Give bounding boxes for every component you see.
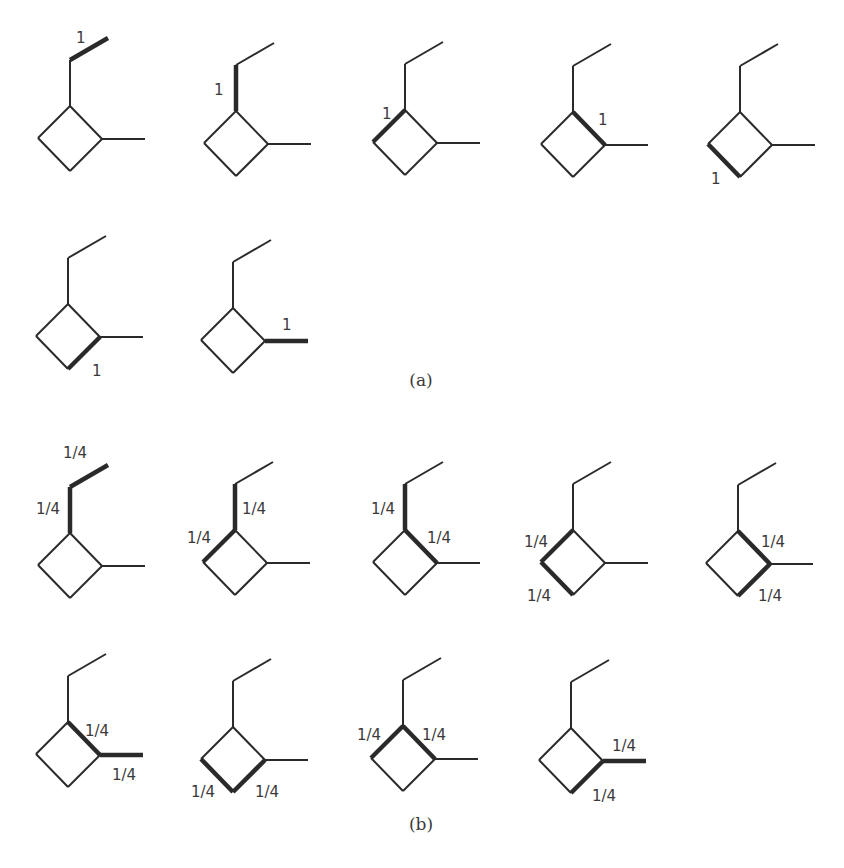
ring-top-right-bond [233,727,265,760]
ring-bottom-left-bond [36,754,68,787]
ring-top-right-bond [405,110,437,143]
ring-top-left-bond [204,111,236,143]
bond-weight-label: 1 [76,29,86,47]
ring-top-left-bond [708,112,740,144]
ethyl-terminal-bond-highlighted [70,465,108,487]
molecule: 1 [204,43,311,176]
ring-bottom-left-bond [201,340,233,373]
bond-weight-label: 1/4 [357,726,381,744]
ring-top-right-bond [235,530,267,563]
molecule: 1/41/4 [371,462,480,595]
bond-weight-label: 1/4 [255,783,279,801]
panel-a: 1111111 [36,29,815,380]
molecule: 1/41/4 [524,462,648,605]
bond-weight-label: 1 [92,362,102,380]
ring-top-right-bond [573,530,605,563]
bond-weight-label: 1/4 [761,533,785,551]
bond-weight-label: 1/4 [592,787,616,805]
ring-top-left-bond [541,112,573,144]
ring-bottom-left-bond [371,758,403,791]
bond-weight-label: 1/4 [85,722,109,740]
figure-canvas: 1111111 (a) 1/41/41/41/41/41/41/41/41/41… [0,0,844,868]
molecule: 1 [541,44,648,177]
molecule: 1/41/4 [36,444,145,598]
molecule: 1/41/4 [706,463,813,605]
ethyl-terminal-bond [740,44,778,66]
ethyl-terminal-bond [235,462,273,484]
ring-bottom-right-bond [233,341,265,373]
bond-weight-label: 1 [598,111,608,129]
ring-top-left-bond [36,304,68,336]
ring-bottom-right-bond [740,145,772,177]
ethyl-terminal-bond [573,44,611,66]
ethyl-terminal-bond [236,43,274,65]
ring-bottom-right-bond [70,139,102,171]
bond-weight-label: 1/4 [187,529,211,547]
ring-bottom-right-bond [573,145,605,177]
molecule: 1 [708,44,815,188]
ring-bottom-left-bond [38,565,70,598]
ethyl-terminal-bond [68,236,106,258]
ring-bottom-right-bond [235,563,267,595]
bond-weight-label: 1/4 [612,737,636,755]
ring-top-right-bond [68,304,100,337]
ring-top-left-bond [201,727,233,759]
ethyl-terminal-bond [405,42,443,64]
ring-bottom-right-bond [70,566,102,598]
ethyl-terminal-bond [571,660,609,682]
ethyl-terminal-bond [573,462,611,484]
ring-bottom-left-bond [373,142,405,175]
ring-bottom-left-bond [373,562,405,595]
ring-bottom-left-bond [204,143,236,176]
panel-b-caption: (b) [409,814,433,834]
ring-bottom-left-bond [203,562,235,595]
ethyl-terminal-bond [233,240,271,262]
ring-top-left-bond [706,531,738,563]
bond-weight-label: 1/4 [527,587,551,605]
ring-top-left-bond [38,106,70,138]
ring-top-left-bond [373,530,405,562]
ring-bottom-right-bond [236,144,268,176]
ring-bottom-right-bond [403,759,435,791]
ring-bottom-left-bond [541,144,573,177]
molecule: 1/41/4 [187,462,310,595]
bond-weight-label: 1/4 [191,783,215,801]
molecule: 1 [201,240,308,373]
molecule: 1 [373,42,480,175]
ring-bottom-left-bond [38,138,70,171]
bond-weight-label: 1 [711,170,721,188]
molecule: 1/41/4 [357,658,478,791]
ring-top-left-bond [36,722,68,754]
ring-top-left-bond [201,308,233,340]
ethyl-terminal-bond [405,462,443,484]
bond-weight-label: 1/4 [422,726,446,744]
bond-weight-label: 1/4 [427,529,451,547]
ring-top-right-bond [571,728,603,761]
panel-b: 1/41/41/41/41/41/41/41/41/41/41/41/41/41… [36,444,813,805]
bond-weight-label: 1 [282,316,292,334]
ethyl-terminal-bond [403,658,441,680]
bond-weight-label: 1 [382,105,392,123]
bond-weight-label: 1/4 [36,500,60,518]
panel-a-caption: (a) [409,370,432,390]
bond-weight-label: 1/4 [63,444,87,462]
ring-bottom-right-bond [68,755,100,787]
bond-weight-label: 1/4 [112,766,136,784]
ethyl-terminal-bond [233,659,271,681]
ethyl-terminal-bond [68,654,106,676]
bond-weight-label: 1/4 [758,587,782,605]
molecule: 1/41/4 [539,660,646,805]
bond-weight-label: 1/4 [242,500,266,518]
ring-bottom-left-bond [706,563,738,596]
molecule: 1/41/4 [191,659,308,801]
bond-weight-label: 1 [214,81,224,99]
ring-top-right-bond [236,111,268,144]
ring-bottom-left-bond [36,336,68,369]
ring-bottom-left-bond [539,760,571,793]
bond-weight-label: 1/4 [524,533,548,551]
ring-top-right-bond [70,106,102,139]
ring-top-right-bond [233,308,265,341]
ring-top-left-bond [539,728,571,760]
ring-top-right-bond [70,533,102,566]
ring-top-right-bond [740,112,772,145]
